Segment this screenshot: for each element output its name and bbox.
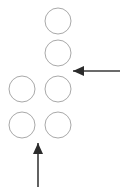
canvas-background bbox=[0, 0, 122, 187]
diagram-illustration bbox=[0, 0, 122, 187]
diagram-canvas bbox=[0, 0, 122, 187]
